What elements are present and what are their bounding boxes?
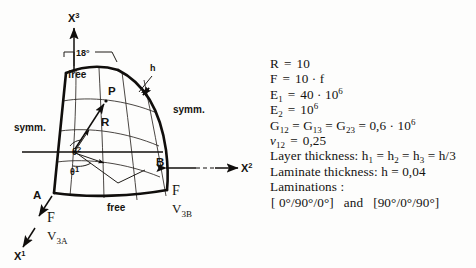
property-force-value: 10 · f — [295, 71, 324, 86]
edge-free-bottom — [54, 190, 167, 196]
label-point-a: A — [33, 189, 41, 201]
property-e1-value: 40 · 10 — [300, 87, 338, 102]
property-e1-label: E — [270, 87, 278, 102]
property-e2-eq: = — [288, 102, 296, 117]
edge-symm-left — [54, 73, 66, 193]
layer-thickness-label: Layer thickness: — [270, 148, 358, 163]
axis-x3-label: X3 — [68, 11, 80, 24]
property-g13-label: G — [303, 118, 313, 133]
property-layer-thickness: Layer thickness: h1 = h2 = h3 = h/3 — [270, 148, 476, 163]
label-symm-right: symm. — [173, 104, 205, 115]
property-force: F=10 · f — [270, 71, 476, 86]
property-force-label: F — [270, 71, 277, 86]
lamination-sequence-1: [ 0°/90°/0°] — [271, 195, 334, 210]
property-shear-sup: 6 — [411, 116, 416, 126]
lamination-conjunction: and — [344, 195, 363, 210]
property-laminate-thickness: Laminate thickness: h = 0,04 — [270, 164, 476, 179]
property-poisson: ν12=0,25 — [270, 133, 476, 148]
axis-x1-label: X1 — [14, 249, 26, 262]
property-e2-label: E — [270, 102, 278, 117]
angle-18-label: 18° — [76, 48, 90, 58]
figure-page: X3 18° — [0, 0, 476, 268]
property-poisson-eq: = — [290, 133, 298, 148]
label-thickness-h: h — [150, 63, 156, 73]
point-p-and-radius: P R — [75, 85, 116, 149]
label-free-bottom: free — [107, 202, 126, 213]
laminate-thickness-value: h = 0,04 — [381, 164, 426, 179]
label-point-b: B — [156, 156, 164, 168]
property-poisson-value: 0,25 — [303, 133, 326, 148]
point-p-marker — [104, 99, 107, 102]
property-radius-eq: = — [284, 56, 292, 71]
property-laminations-heading: Laminations : — [270, 179, 476, 194]
property-e2-value: 10 — [300, 102, 313, 117]
label-free-top: free — [68, 69, 87, 80]
property-e1: E1=40 · 106 — [270, 87, 476, 102]
property-radius-value: 10 — [296, 56, 309, 71]
property-radius-label: R — [270, 56, 279, 71]
axis-x2-label: X2 — [241, 161, 253, 174]
property-e1-sup: 6 — [338, 85, 343, 95]
label-symm-left: symm. — [14, 122, 46, 133]
load-point-a: A X1 F V3A — [14, 189, 68, 262]
laminate-thickness-label: Laminate thickness: — [270, 164, 378, 179]
property-e1-eq: = — [288, 87, 296, 102]
property-shear-moduli: G12 = G13 = G23 = 0,6 · 106 — [270, 118, 476, 133]
property-shear-value: 0,6 · 10 — [369, 118, 410, 133]
label-displacement-b: V3B — [172, 201, 192, 219]
property-g12-label: G — [270, 118, 280, 133]
lamination-sequence-2: [90°/0°/90°] — [373, 195, 439, 210]
angle-annotation-18deg: 18° — [64, 48, 117, 66]
property-g23-label: G — [336, 118, 346, 133]
property-force-eq: = — [282, 71, 290, 86]
label-theta1: θ1 — [70, 165, 79, 178]
property-lamination-sequences: [ 0°/90°/0°]and[90°/0°/90°] — [270, 195, 476, 210]
laminations-label: Laminations : — [270, 179, 344, 194]
property-e2-sup: 6 — [314, 101, 319, 111]
material-properties-block: R=10 F=10 · f E1=40 · 106 E2=106 G12 = G… — [270, 56, 476, 210]
property-radius: R=10 — [270, 56, 476, 71]
label-point-p: P — [108, 85, 116, 97]
load-point-b: B F V3B — [156, 156, 192, 219]
label-force-a: F — [47, 210, 55, 225]
layer-thickness-value: h1 = h2 = h3 = h/3 — [362, 148, 456, 163]
label-vector-r: R — [101, 116, 110, 128]
label-displacement-a: V3A — [47, 228, 68, 246]
label-force-b: F — [172, 183, 180, 198]
property-e2: E2=106 — [270, 102, 476, 117]
